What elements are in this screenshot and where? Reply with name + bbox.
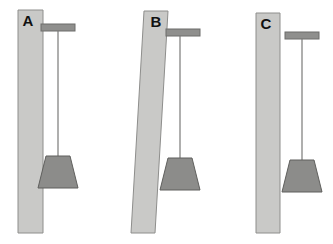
post-c [256,13,280,233]
physics-diagram-scene: ABC [0,0,333,244]
weight-a [38,156,78,188]
plumb-line-diagram: ABC [0,0,333,244]
panel-a: A [18,10,78,233]
panel-c: C [256,13,322,233]
post-a [18,10,43,233]
panel-label-c: C [261,15,272,32]
panel-label-b: B [151,13,162,30]
support-bar-b [166,29,200,36]
support-bar-c [285,32,319,39]
weight-c [282,160,322,192]
support-bar-a [41,24,75,31]
post-b [131,11,168,233]
panel-label-a: A [23,12,34,29]
weight-b [160,158,200,190]
panel-b: B [131,11,200,233]
